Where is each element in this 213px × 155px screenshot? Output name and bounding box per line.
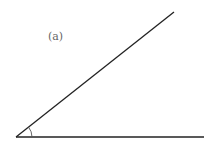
angle-figure: [0, 0, 213, 155]
figure-label: (a): [48, 30, 63, 43]
inclined-ray: [16, 12, 174, 137]
angle-arc: [29, 127, 32, 137]
angle-diagram: (a): [0, 0, 213, 155]
